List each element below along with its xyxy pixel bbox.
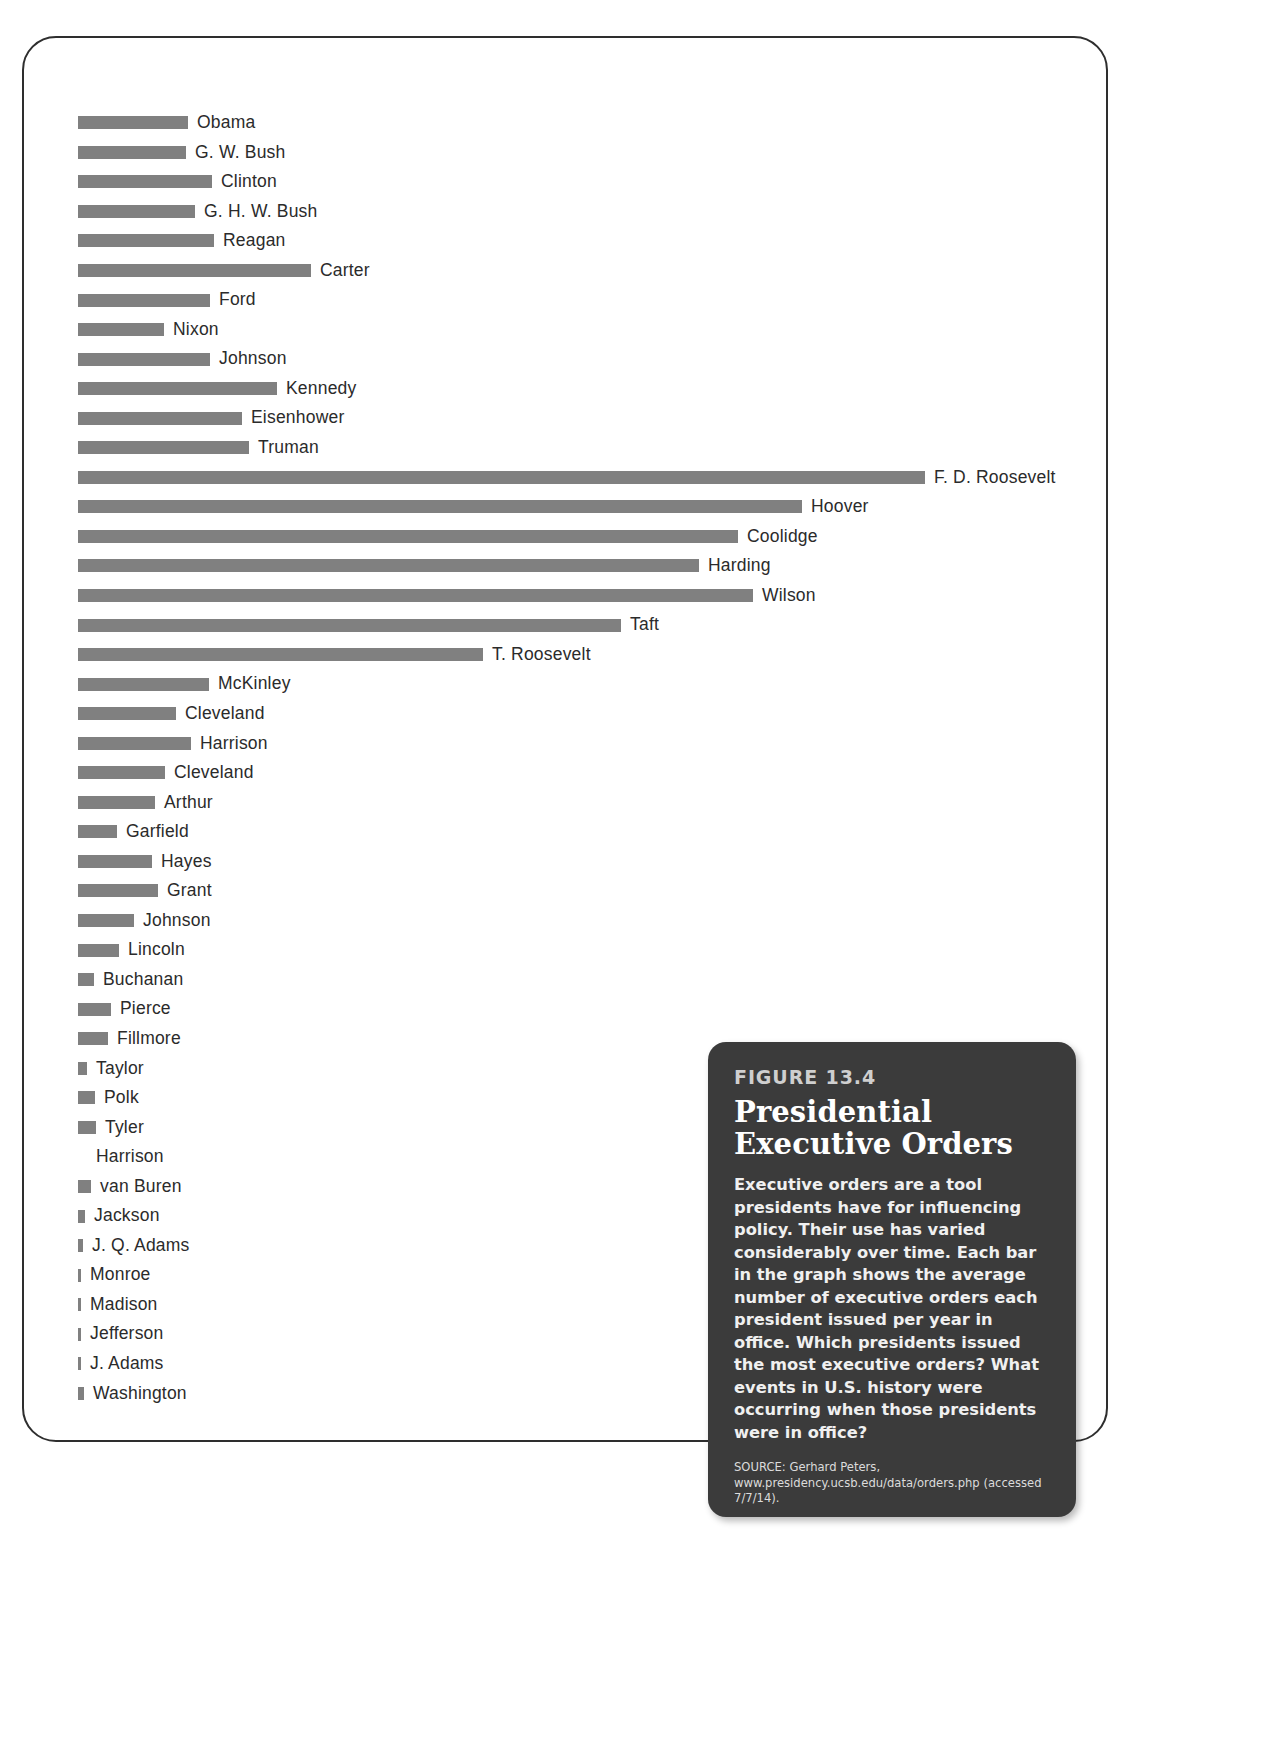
bar-row: Johnson [78,344,1198,374]
figure-number-label: FIGURE 13.4 [734,1066,1050,1088]
bar-label: Arthur [164,794,213,812]
bar-mark [78,1062,87,1075]
bar-mark [78,116,188,129]
figure-source-note: SOURCE: Gerhard Peters, www.presidency.u… [734,1460,1050,1507]
bar-label: Wilson [762,587,816,605]
bar-label: Jefferson [90,1325,163,1343]
figure-description-text: Executive orders are a tool presidents h… [734,1174,1050,1444]
bar-mark [78,855,152,868]
bar-label: Taylor [96,1060,144,1078]
bar-row: Coolidge [78,522,1198,552]
bar-label: Johnson [219,350,287,368]
bar-label: Buchanan [103,971,183,989]
bar-label: Nixon [173,321,219,339]
bar-mark [78,412,242,425]
figure-title: PresidentialExecutive Orders [734,1097,1050,1160]
bar-mark [78,500,802,513]
bar-row: Buchanan [78,965,1198,995]
bar-row: Obama [78,108,1198,138]
bar-label: Clinton [221,173,277,191]
bar-mark [78,1180,91,1193]
bar-label: Truman [258,439,319,457]
figure-page: ObamaG. W. BushClintonG. H. W. BushReaga… [0,0,1269,1746]
bar-label: F. D. Roosevelt [934,469,1056,487]
bar-label: Jackson [94,1207,160,1225]
bar-label: Carter [320,262,370,280]
bar-label: Monroe [90,1266,151,1284]
bar-mark [78,1032,108,1045]
bar-label: Eisenhower [251,409,344,427]
bar-label: Polk [104,1089,139,1107]
bar-label: Lincoln [128,941,185,959]
bar-row: G. W. Bush [78,138,1198,168]
bar-label: Tyler [105,1119,144,1137]
bar-row: Lincoln [78,935,1198,965]
bar-label: Cleveland [185,705,265,723]
bar-label: Taft [630,616,659,634]
bar-mark [78,589,753,602]
bar-mark [78,294,210,307]
bar-row: Arthur [78,788,1198,818]
bar-row: Hoover [78,492,1198,522]
bar-mark [78,382,277,395]
bar-mark [78,146,186,159]
bar-mark [78,737,191,750]
bar-label: Cleveland [174,764,254,782]
bar-mark [78,175,212,188]
bar-mark [78,796,155,809]
bar-mark [78,884,158,897]
bar-row: Taft [78,610,1198,640]
bar-row: Eisenhower [78,403,1198,433]
bar-mark [78,264,311,277]
bar-mark [78,825,117,838]
bar-label: van Buren [100,1178,182,1196]
bar-row: Cleveland [78,758,1198,788]
bar-row: Carter [78,256,1198,286]
bar-mark [78,1210,85,1223]
bar-label: Fillmore [117,1030,181,1048]
bar-mark [78,973,94,986]
bar-label: Harrison [96,1148,164,1166]
bar-label: Grant [167,882,212,900]
bar-label: Coolidge [747,528,818,546]
bar-label: G. H. W. Bush [204,203,317,221]
bar-mark [78,530,738,543]
bar-row: Nixon [78,315,1198,345]
bar-row: Hayes [78,847,1198,877]
bar-mark [78,1121,96,1134]
bar-label: Washington [93,1385,187,1403]
bar-row: Harding [78,551,1198,581]
bar-mark [78,619,621,632]
bar-mark [78,944,119,957]
bar-mark [78,559,699,572]
bar-label: Obama [197,114,255,132]
bar-mark [78,1269,81,1282]
bar-row: Harrison [78,728,1198,758]
bar-row: Kennedy [78,374,1198,404]
bar-row: Ford [78,285,1198,315]
bar-label: J. Adams [90,1355,164,1373]
bar-mark [78,471,925,484]
bar-row: Garfield [78,817,1198,847]
bar-mark [78,353,210,366]
bar-mark [78,766,165,779]
bar-label: McKinley [218,675,291,693]
bar-mark [78,1239,83,1252]
bar-mark [78,914,134,927]
bar-label: Pierce [120,1000,171,1018]
bar-mark [78,205,195,218]
bar-mark [78,1387,84,1400]
figure-caption-card: FIGURE 13.4 PresidentialExecutive Orders… [708,1042,1076,1517]
bar-row: F. D. Roosevelt [78,463,1198,493]
bar-mark [78,648,483,661]
bar-mark [78,1091,95,1104]
bar-mark [78,323,164,336]
bar-mark [78,441,249,454]
bar-mark [78,707,176,720]
bar-row: Wilson [78,581,1198,611]
bar-mark [78,1003,111,1016]
bar-row: Grant [78,876,1198,906]
bar-label: G. W. Bush [195,144,286,162]
bar-label: Harrison [200,735,268,753]
bar-label: Kennedy [286,380,357,398]
